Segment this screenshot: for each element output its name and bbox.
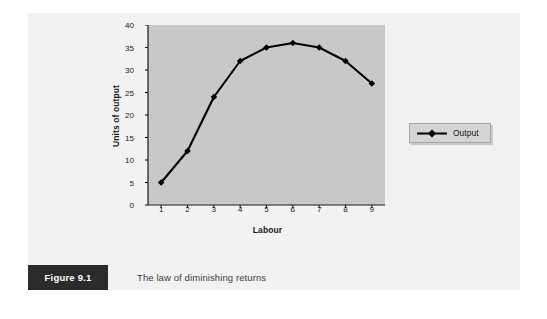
chart-region: Units of output 0510152025303540 1234567… bbox=[110, 25, 410, 247]
figure-panel: Units of output 0510152025303540 1234567… bbox=[28, 13, 520, 290]
y-axis-tick-label: 5 bbox=[110, 178, 134, 187]
y-axis-tick-label: 25 bbox=[110, 88, 134, 97]
y-axis-tick-label: 15 bbox=[110, 133, 134, 142]
x-axis-tick-label: 4 bbox=[230, 205, 250, 214]
y-axis-tick-label: 35 bbox=[110, 43, 134, 52]
plot-area-background bbox=[148, 25, 385, 205]
chart-legend: Output bbox=[409, 123, 491, 143]
y-axis-tick-label: 10 bbox=[110, 156, 134, 165]
x-axis-tick-label: 9 bbox=[362, 205, 382, 214]
x-axis-tick-label: 3 bbox=[204, 205, 224, 214]
x-axis-tick-labels: 123456789 bbox=[110, 205, 410, 219]
legend-entry-label: Output bbox=[453, 128, 479, 138]
x-axis-tick-label: 7 bbox=[309, 205, 329, 214]
x-axis-tick-label: 6 bbox=[283, 205, 303, 214]
x-axis-tick-label: 1 bbox=[151, 205, 171, 214]
x-axis-tick-label: 8 bbox=[336, 205, 356, 214]
x-axis-tick-label: 5 bbox=[257, 205, 277, 214]
x-axis-title: Labour bbox=[160, 225, 375, 235]
y-axis-tick-label: 20 bbox=[110, 111, 134, 120]
y-axis-tick-label: 40 bbox=[110, 21, 134, 30]
diamond-marker-icon bbox=[417, 129, 447, 138]
figure-number-badge: Figure 9.1 bbox=[28, 265, 108, 290]
figure-caption-row: Figure 9.1 The law of diminishing return… bbox=[28, 265, 520, 290]
figure-caption-text: The law of diminishing returns bbox=[137, 265, 266, 290]
figure-number-label: Figure 9.1 bbox=[45, 272, 92, 283]
plot-svg bbox=[140, 25, 385, 211]
y-axis-tick-label: 30 bbox=[110, 66, 134, 75]
x-axis-tick-label: 2 bbox=[178, 205, 198, 214]
